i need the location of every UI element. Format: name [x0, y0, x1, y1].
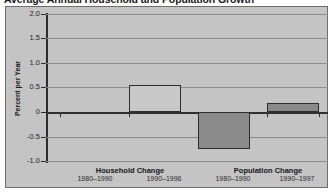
y-tick-label-0-5: 0.5 — [2, 83, 40, 91]
x-axis-tick-3 — [198, 113, 199, 117]
chart-figure: Average Annual Household and Population … — [0, 0, 334, 192]
y-tick-label-neg-0-5: -0.5 — [2, 133, 40, 141]
period-label-population-1980-1990: 1980–1990 — [198, 175, 268, 182]
period-label-population-1990-1997: 1990–1997 — [262, 175, 332, 182]
y-tick-label-neg-1-0: -1.0 — [2, 157, 40, 165]
bar-population-1990-1997 — [267, 103, 319, 112]
period-label-household-1980-1990: 1980–1990 — [60, 175, 130, 182]
chart-title: Average Annual Household and Population … — [4, 0, 330, 5]
gridline-2-0 — [46, 14, 328, 15]
gridline-1-0 — [46, 63, 328, 64]
plot-area — [46, 14, 328, 162]
x-axis-tick-4 — [267, 113, 268, 117]
gridline-neg-0-5 — [46, 137, 328, 138]
gridline-0-5 — [46, 87, 328, 88]
group-label-household-change: Household Change — [60, 166, 200, 175]
gridline-1-5 — [46, 38, 328, 39]
y-tick-label-2-0: 2.0 — [2, 10, 40, 18]
bar-household-1990-1996 — [129, 85, 181, 112]
group-label-population-change: Population Change — [198, 166, 334, 175]
x-axis-tick-2 — [129, 113, 130, 117]
gridline-neg-1-0 — [46, 161, 328, 162]
y-axis-labels: 2.0 1.5 1.0 0.5 0 -0.5 -1.0 — [0, 0, 40, 192]
y-tick-label-0: 0 — [2, 108, 40, 116]
period-label-household-1990-1996: 1990–1996 — [129, 175, 199, 182]
y-tick-label-1-0: 1.0 — [2, 59, 40, 67]
bar-population-1980-1990 — [198, 112, 250, 149]
x-axis-tick-5 — [319, 113, 320, 117]
gridline-zero — [46, 112, 328, 114]
x-axis-tick-1 — [60, 113, 61, 117]
y-tick-label-1-5: 1.5 — [2, 34, 40, 42]
